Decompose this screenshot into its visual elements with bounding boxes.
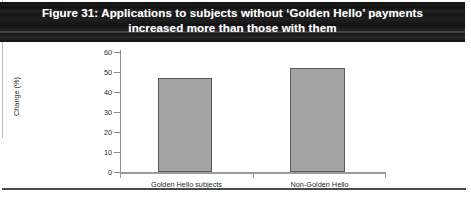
y-tick-60: [114, 52, 120, 53]
y-tick-label-40: 40: [86, 89, 112, 96]
x-tick-end: [385, 173, 386, 178]
y-axis-line: [120, 50, 121, 173]
bar-non-golden-hello: [290, 68, 345, 172]
y-tick-label-0: 0: [86, 169, 112, 176]
y-tick-30: [114, 112, 120, 113]
figure-title-line-2: increased more than those with them: [0, 20, 465, 35]
y-axis-title: Change (%): [12, 57, 21, 137]
y-tick-label-50: 50: [86, 69, 112, 76]
figure-title-line-1: Figure 31: Applications to subjects with…: [42, 6, 423, 19]
y-tick-40: [114, 92, 120, 93]
bottom-border-rule: [2, 188, 466, 190]
y-tick-20: [114, 132, 120, 133]
bar-chart-plot-area: 60 50 40 30 20 10 0 Change (%) Golden He…: [0, 44, 471, 184]
y-tick-10: [114, 152, 120, 153]
figure-title-banner: Figure 31: Applications to subjects with…: [0, 2, 465, 42]
x-tick-middle: [253, 173, 254, 178]
figure-title: Figure 31: Applications to subjects with…: [0, 5, 465, 35]
y-tick-label-30: 30: [86, 109, 112, 116]
figure-31-container: Figure 31: Applications to subjects with…: [0, 0, 471, 197]
y-tick-label-10: 10: [86, 149, 112, 156]
x-tick-start: [120, 173, 121, 178]
y-tick-label-60: 60: [86, 49, 112, 56]
y-tick-label-20: 20: [86, 129, 112, 136]
y-tick-50: [114, 72, 120, 73]
bar-golden-hello-subjects: [158, 78, 212, 172]
